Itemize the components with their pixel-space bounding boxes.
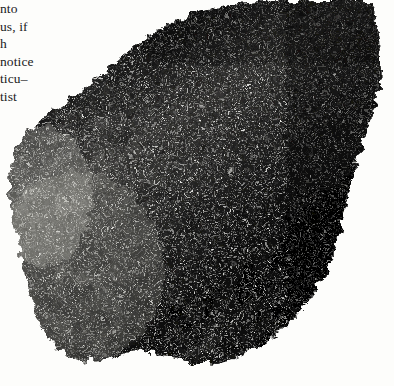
page-canvas: nto us, if h notice ticu– tist Black-and… [0,0,394,386]
specimen-photo-svg [0,0,394,386]
mineral-specimen-photograph [0,0,394,386]
